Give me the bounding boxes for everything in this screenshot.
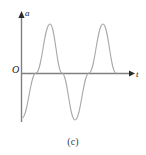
y-axis-label: a xyxy=(25,9,30,18)
x-axis-label: t xyxy=(136,70,139,79)
sine-curve-group xyxy=(22,24,116,120)
oscillation-plot xyxy=(0,0,146,155)
origin-label: O xyxy=(12,65,19,75)
vertical-axis xyxy=(18,11,24,122)
figure-caption: (c) xyxy=(0,136,146,147)
acceleration-waveform xyxy=(22,24,116,120)
figure-container: a t O (c) xyxy=(0,0,146,155)
right-arrow-icon xyxy=(129,70,135,76)
up-arrow-icon xyxy=(18,11,24,18)
